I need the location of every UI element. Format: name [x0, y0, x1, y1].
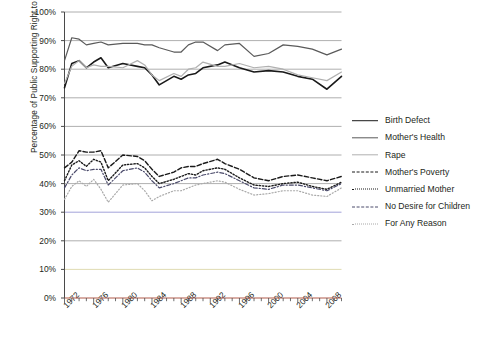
- legend-item: Rape: [352, 146, 500, 163]
- legend-label: Birth Defect: [385, 116, 430, 125]
- legend-swatch-icon: [352, 150, 378, 160]
- legend-swatch-icon: [352, 184, 378, 194]
- legend-label: Mother's Poverty: [385, 168, 449, 177]
- series-line: [65, 38, 342, 61]
- legend-label: Rape: [385, 151, 406, 160]
- legend-item: For Any Reason: [352, 215, 500, 232]
- legend-swatch-icon: [352, 167, 378, 177]
- legend-swatch-icon: [352, 116, 378, 126]
- legend-item: Mother's Poverty: [352, 164, 500, 181]
- legend-swatch-icon: [352, 219, 378, 229]
- legend-swatch-icon: [352, 202, 378, 212]
- legend-label: No Desire for Children: [385, 202, 470, 211]
- chart-legend: Birth DefectMother's HealthRapeMother's …: [352, 112, 500, 232]
- legend-item: Birth Defect: [352, 112, 500, 129]
- legend-label: For Any Reason: [385, 219, 447, 228]
- legend-label: Mother's Health: [385, 133, 445, 142]
- legend-label: Unmarried Mother: [385, 185, 454, 194]
- legend-item: Unmarried Mother: [352, 181, 500, 198]
- legend-item: Mother's Health: [352, 129, 500, 146]
- legend-swatch-icon: [352, 133, 378, 143]
- legend-item: No Desire for Children: [352, 198, 500, 215]
- abortion-support-line-chart: Percentage of Public Supporting Right to…: [0, 0, 501, 357]
